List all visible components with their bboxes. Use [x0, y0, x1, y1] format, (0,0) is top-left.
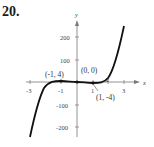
annotation-label: (0, 0): [81, 66, 98, 75]
y-tick-label: -100: [56, 102, 68, 109]
x-tick-label: -3: [26, 87, 31, 94]
point-marker: [75, 80, 78, 83]
point-marker: [59, 79, 62, 82]
y-tick-label: -200: [56, 124, 68, 131]
y-tick-label: 100: [60, 57, 70, 64]
x-axis-label: x: [142, 79, 146, 86]
y-tick-label: 200: [60, 34, 70, 41]
x-tick-label: 3: [122, 87, 125, 94]
cubic-function-graph: x y -3 -1 1 2 3 200 100 -100 -200 (-1, 4…: [0, 0, 154, 147]
annotation-label: (1, -4): [96, 93, 115, 102]
annotation-label: (-1, 4): [45, 70, 64, 79]
x-tick-label: 1: [91, 87, 94, 94]
x-tick-label: -1: [58, 87, 63, 94]
y-axis: y: [74, 11, 79, 137]
y-axis-label: y: [74, 11, 78, 18]
